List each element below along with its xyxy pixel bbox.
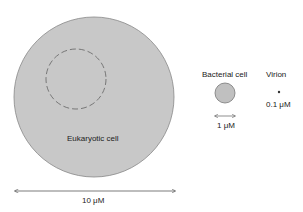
bacterial-scale-label: 1 μM: [217, 121, 235, 130]
virion-label: Virion: [266, 70, 286, 79]
eukaryotic-cell: [14, 17, 174, 177]
bacterial-cell: [215, 83, 235, 103]
bacterial-label: Bacterial cell: [202, 70, 247, 79]
eukaryotic-scale-label: 10 μM: [82, 196, 104, 205]
virion: [278, 91, 280, 93]
diagram-canvas: [0, 0, 303, 212]
eukaryotic-label: Eukaryotic cell: [67, 134, 119, 143]
virion-scale-label: 0.1 μM: [266, 100, 291, 109]
